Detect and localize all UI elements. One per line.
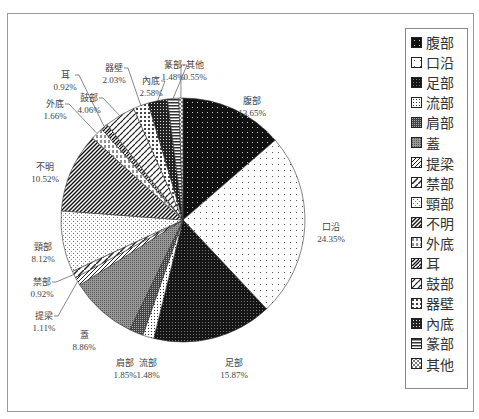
slice-label-percent: 8.86% (72, 341, 95, 353)
slice-label-percent: 1.85% (113, 369, 136, 381)
legend-label: 禁部 (426, 173, 454, 193)
slice-label-name: 肩部 (113, 357, 136, 369)
slice-label: 耳0.92% (53, 69, 76, 93)
slice-label: 流部1.48% (136, 357, 159, 381)
slice-label-name: 頸部 (31, 241, 54, 253)
legend-label: 內底 (426, 313, 454, 333)
legend-swatch-icon (411, 258, 422, 269)
slice-label-name: 器壁 (102, 62, 125, 74)
slice-label-percent: 4.06% (77, 104, 100, 116)
legend-label: 足部 (426, 72, 454, 92)
slice-label: 不明10.52% (31, 161, 59, 185)
slice-label-name: 外底 (43, 98, 66, 110)
slice-label-percent: 24.35% (317, 233, 345, 245)
legend-swatch-icon (411, 197, 422, 208)
legend-label: 鼓部 (426, 273, 454, 293)
slice-label-name: 鼓部 (77, 92, 100, 104)
slice-label-percent: 2.58% (139, 87, 162, 99)
legend-item: 內底 (411, 313, 467, 333)
legend-swatch-icon (411, 97, 422, 108)
leader-line (52, 275, 74, 283)
leader-line (99, 98, 120, 116)
legend-label: 流部 (426, 92, 454, 112)
legend-swatch-icon (411, 338, 422, 349)
legend-label: 不明 (426, 213, 454, 233)
legend-swatch-icon (411, 57, 422, 68)
legend-swatch-icon (411, 137, 422, 148)
legend-swatch-icon (411, 278, 422, 289)
legend-swatch-icon (411, 177, 422, 188)
slice-label-percent: 1.66% (43, 110, 66, 122)
legend-swatch-icon (411, 77, 422, 88)
legend-item: 外底 (411, 233, 467, 253)
slice-label-percent: 10.52% (31, 173, 59, 185)
legend-item: 器壁 (411, 293, 467, 313)
legend-label: 外底 (426, 233, 454, 253)
legend-swatch-icon (411, 298, 422, 309)
legend-swatch-icon (411, 157, 422, 168)
legend-item: 流部 (411, 92, 467, 112)
slice-label-percent: 8.12% (31, 253, 54, 265)
slice-label: 外底1.66% (43, 98, 66, 122)
slice-label: 口沿24.35% (317, 221, 345, 245)
slice-label: 鼓部4.06% (77, 92, 100, 116)
slice-label-percent: 0.55% (183, 71, 206, 83)
slice-label-name: 禁部 (30, 276, 53, 288)
legend-label: 器壁 (426, 293, 454, 313)
slice-label-name: 其他 (183, 59, 206, 71)
legend-label: 頸部 (426, 193, 454, 213)
slice-label-name: 流部 (136, 357, 159, 369)
slice-label: 篆部1.48% (161, 59, 184, 83)
slice-label: 內底2.58% (139, 75, 162, 99)
slice-label-name: 內底 (139, 75, 162, 87)
slice-label: 器壁2.03% (102, 62, 125, 86)
legend-label: 肩部 (426, 112, 454, 132)
slice-label-name: 足部 (220, 357, 248, 369)
legend-label: 其他 (426, 354, 454, 374)
legend-item: 篆部 (411, 333, 467, 353)
chart-legend: 腹部口沿足部流部肩部蓋提梁禁部頸部不明外底耳鼓部器壁內底篆部其他 (405, 28, 468, 389)
legend-label: 腹部 (426, 32, 454, 52)
slice-label-name: 蓋 (72, 329, 95, 341)
slice-label-percent: 0.92% (30, 288, 53, 300)
legend-label: 提梁 (426, 153, 454, 173)
slice-label: 肩部1.85% (113, 357, 136, 381)
slice-label-name: 腹部 (238, 95, 266, 107)
slice-label-percent: 0.92% (53, 81, 76, 93)
legend-item: 其他 (411, 354, 467, 374)
legend-item: 口沿 (411, 52, 467, 72)
slice-label: 提梁1.11% (33, 310, 56, 334)
slice-label-name: 不明 (31, 161, 59, 173)
legend-item: 頸部 (411, 193, 467, 213)
legend-item: 鼓部 (411, 273, 467, 293)
slice-label-name: 篆部 (161, 59, 184, 71)
legend-item: 不明 (411, 213, 467, 233)
slice-label-name: 口沿 (317, 221, 345, 233)
slice-label: 足部15.87% (220, 357, 248, 381)
slice-label-percent: 13.65% (238, 107, 266, 119)
legend-item: 禁部 (411, 173, 467, 193)
legend-swatch-icon (411, 237, 422, 248)
legend-item: 蓋 (411, 132, 467, 152)
legend-swatch-icon (411, 358, 422, 369)
slice-label-percent: 1.48% (161, 71, 184, 83)
legend-item: 耳 (411, 253, 467, 273)
slice-label-name: 耳 (53, 69, 76, 81)
slice-label: 頸部8.12% (31, 241, 54, 265)
legend-swatch-icon (411, 37, 422, 48)
slice-label: 其他0.55% (183, 59, 206, 83)
slice-label-percent: 2.03% (102, 74, 125, 86)
legend-swatch-icon (411, 318, 422, 329)
legend-label: 耳 (426, 253, 440, 273)
slice-label: 禁部0.92% (30, 276, 53, 300)
legend-swatch-icon (411, 117, 422, 128)
leader-line (54, 281, 78, 316)
slice-label: 腹部13.65% (238, 95, 266, 119)
slice-label-name: 提梁 (33, 310, 56, 322)
legend-label: 篆部 (426, 333, 454, 353)
slice-label-percent: 1.48% (136, 369, 159, 381)
legend-item: 足部 (411, 72, 467, 92)
legend-item: 提梁 (411, 153, 467, 173)
slice-label-percent: 15.87% (220, 369, 248, 381)
legend-label: 口沿 (426, 52, 454, 72)
